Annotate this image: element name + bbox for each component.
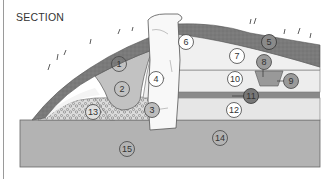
svg-text:6: 6	[183, 37, 188, 47]
svg-text:8: 8	[261, 57, 266, 67]
label-10: 10	[228, 72, 243, 87]
pit-feature	[255, 71, 283, 86]
label-3: 3	[145, 103, 160, 118]
label-9: 9	[284, 74, 299, 89]
label-13: 13	[86, 105, 101, 120]
svg-text:7: 7	[234, 51, 239, 61]
svg-text:9: 9	[288, 76, 293, 86]
label-12: 12	[227, 103, 242, 118]
svg-text:15: 15	[122, 144, 132, 154]
section-diagram: 1 2 3 4 5 6 7 8 9 10 11 12 13 14 15	[0, 0, 330, 179]
label-6: 6	[179, 35, 194, 50]
svg-text:1: 1	[116, 59, 121, 69]
label-8: 8	[257, 55, 272, 70]
svg-text:10: 10	[230, 74, 240, 84]
svg-text:5: 5	[266, 37, 271, 47]
svg-text:2: 2	[119, 84, 124, 94]
svg-text:4: 4	[153, 74, 158, 84]
svg-text:12: 12	[229, 105, 239, 115]
label-7: 7	[230, 49, 245, 64]
svg-text:13: 13	[88, 107, 98, 117]
label-15: 15	[120, 142, 135, 157]
svg-text:11: 11	[246, 91, 255, 101]
label-5: 5	[262, 35, 277, 50]
label-14: 14	[213, 131, 228, 146]
label-11: 11	[244, 89, 259, 104]
svg-text:14: 14	[215, 133, 225, 143]
svg-text:3: 3	[149, 105, 154, 115]
label-4: 4	[149, 72, 164, 87]
